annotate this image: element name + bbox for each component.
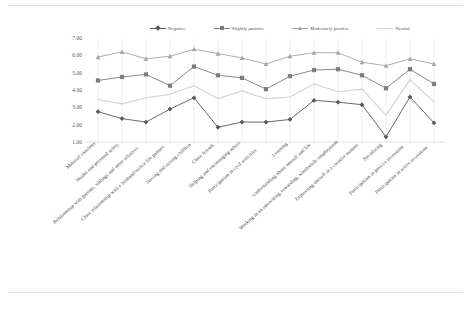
y-tick-label: 5.00 (52, 70, 82, 76)
data-point (192, 47, 197, 52)
legend-item-slightly-positive: Slightly positive (214, 24, 264, 32)
y-tick-label: 2.00 (52, 122, 82, 128)
x-tick-label: Health and personal safety (75, 142, 120, 183)
data-point (432, 82, 436, 86)
x-axis-labels: Material comfortsHealth and personal saf… (0, 142, 471, 292)
legend-swatch-neutral (377, 24, 393, 32)
data-point (168, 107, 173, 112)
y-tick-label: 3.00 (52, 104, 82, 110)
data-point (360, 73, 364, 77)
data-point (144, 72, 148, 76)
data-point (240, 120, 245, 125)
chart-figure: Negative Slightly positive Moderately po… (0, 0, 471, 309)
legend-marker (155, 25, 161, 31)
y-tick-label: 4.00 (52, 87, 82, 93)
data-point (264, 87, 268, 91)
legend-swatch-negative (150, 24, 166, 32)
data-point (216, 73, 220, 77)
data-point (384, 86, 388, 90)
plot-area (86, 38, 446, 142)
chart-svg (86, 38, 446, 144)
x-tick-label: Participation in civil activities (207, 147, 257, 193)
data-point (96, 109, 101, 114)
data-point (192, 65, 196, 69)
legend-marker (220, 26, 224, 30)
legend-item-negative: Negative (150, 24, 185, 32)
legend-item-moderately-positive: Moderately positive (292, 24, 349, 32)
x-tick-label: Learning (271, 141, 288, 157)
y-axis: 7.006.005.004.003.002.001.00 (50, 38, 82, 142)
x-tick-label: Participation in active recreation (374, 145, 428, 195)
bottom-divider (8, 292, 463, 293)
data-point (120, 116, 125, 121)
legend-line (377, 28, 393, 29)
data-point (96, 78, 100, 82)
chart-legend: Negative Slightly positive Moderately po… (150, 22, 410, 34)
data-point (336, 67, 340, 71)
data-point (408, 67, 412, 71)
legend-label-negative: Negative (168, 26, 185, 31)
data-point (264, 120, 269, 125)
data-point (120, 75, 124, 79)
y-tick-label: 6.00 (52, 52, 82, 58)
legend-label-neutral: Neutral (395, 26, 409, 31)
legend-swatch-slightly-positive (214, 24, 230, 32)
top-divider (8, 5, 463, 6)
data-point (336, 100, 341, 105)
legend-marker (298, 26, 302, 30)
data-point (288, 74, 292, 78)
legend-item-neutral: Neutral (377, 24, 409, 32)
data-point (312, 68, 316, 72)
legend-swatch-moderately-positive (292, 24, 308, 32)
y-tick-label: 7.00 (52, 35, 82, 41)
data-point (144, 120, 149, 125)
data-point (168, 84, 172, 88)
x-tick-label: Having and raising children (145, 142, 192, 185)
legend-label-slightly-positive: Slightly positive (232, 26, 264, 31)
data-point (120, 49, 125, 54)
x-tick-label: Socializing (362, 142, 383, 162)
data-point (408, 56, 413, 61)
data-point (240, 76, 244, 80)
x-tick-label: Relationship with parents, siblings and … (52, 146, 139, 225)
legend-label-moderately-positive: Moderately positive (310, 26, 349, 31)
x-tick-label: Close friends (191, 142, 215, 164)
